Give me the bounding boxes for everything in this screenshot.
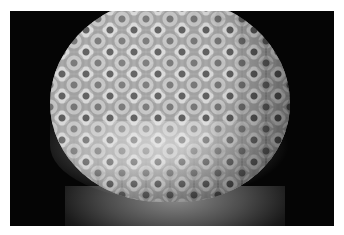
coral-photo xyxy=(10,11,334,226)
photo-caption xyxy=(10,229,334,235)
coral-shading xyxy=(50,11,290,202)
